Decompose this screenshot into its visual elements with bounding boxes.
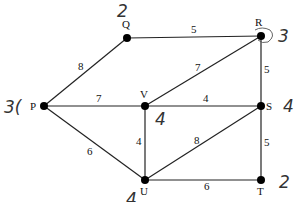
edge-Q-R — [127, 36, 261, 38]
edge-P-U — [44, 106, 145, 180]
node-label-U: U — [140, 185, 148, 197]
handwritten-annotation-R: 3 — [278, 26, 289, 46]
node-label-S: S — [266, 100, 272, 112]
node-label-V: V — [140, 88, 148, 100]
weighted-graph-diagram: 85774564865 QRPVSUT 233(4424 — [0, 0, 296, 202]
edge-weight-R-S: 5 — [264, 63, 270, 75]
node-P — [40, 102, 48, 110]
node-label-P: P — [30, 100, 36, 112]
edge-weight-P-V: 7 — [96, 92, 102, 104]
edge-weight-V-U: 4 — [136, 135, 142, 147]
edge-weight-P-Q: 8 — [78, 60, 84, 72]
handwritten-annotations-group: 233(4424 — [4, 1, 294, 202]
edge-P-Q — [44, 38, 127, 106]
node-S — [257, 102, 265, 110]
node-U — [141, 176, 149, 184]
node-Q — [123, 34, 131, 42]
node-T — [257, 176, 265, 184]
node-R — [257, 32, 265, 40]
edges-group — [44, 36, 261, 180]
edge-weight-P-U: 6 — [87, 145, 93, 157]
handwritten-annotation-S: 4 — [283, 96, 294, 116]
edge-weight-V-R: 7 — [195, 61, 201, 73]
edge-weight-U-S: 8 — [194, 134, 200, 146]
handwritten-annotation-T: 2 — [279, 172, 290, 192]
handwritten-annotation-U: 4 — [126, 189, 137, 202]
node-label-R: R — [255, 16, 263, 28]
node-V — [141, 102, 149, 110]
nodes-group — [40, 32, 265, 184]
edge-weight-U-T: 6 — [204, 180, 210, 192]
edge-weight-V-S: 4 — [203, 92, 209, 104]
node-label-T: T — [257, 185, 264, 197]
edge-weight-Q-R: 5 — [191, 23, 197, 35]
handwritten-annotation-P: 3( — [4, 97, 23, 117]
handwritten-annotation-V: 4 — [155, 109, 166, 129]
handwritten-annotation-Q: 2 — [117, 1, 128, 21]
edge-weight-S-T: 5 — [264, 136, 270, 148]
